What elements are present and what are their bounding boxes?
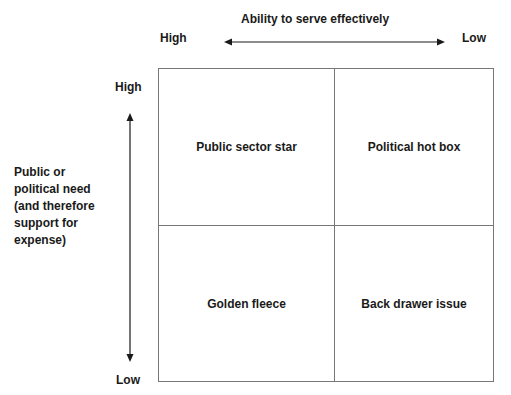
quadrant-bottom-right: Back drawer issue xyxy=(335,226,493,382)
left-axis-high-label: High xyxy=(115,80,142,94)
horizontal-double-arrow-icon xyxy=(224,39,445,46)
quadrant-grid: Public sector star Political hot box Gol… xyxy=(158,68,494,382)
left-axis-low-label: Low xyxy=(116,373,140,387)
quadrant-top-right: Political hot box xyxy=(335,69,493,225)
quadrant-bottom-left: Golden fleece xyxy=(159,226,334,382)
vertical-double-arrow-icon xyxy=(127,113,134,362)
left-axis-title: Public or political need (and therefore … xyxy=(14,164,124,249)
quadrant-top-left: Public sector star xyxy=(159,69,334,225)
